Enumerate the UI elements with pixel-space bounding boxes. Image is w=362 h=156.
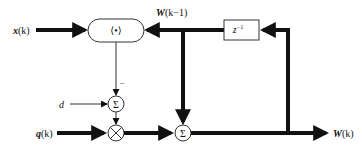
- output-w-label: W(k): [333, 128, 354, 140]
- input-q-label: q(k): [36, 128, 53, 140]
- feedback-w-label: W(k−1): [156, 7, 187, 19]
- desired-d-label: d: [59, 99, 65, 110]
- svg-text:q(k): q(k): [36, 128, 53, 140]
- svg-text:Σ: Σ: [180, 128, 186, 139]
- input-x-label: x(k): [12, 25, 30, 37]
- svg-text:Σ: Σ: [113, 99, 119, 110]
- inner-product-block: ⟨•⟩: [88, 19, 144, 42]
- delay-block: z−1: [224, 20, 259, 40]
- svg-text:W(k): W(k): [333, 128, 354, 140]
- error-sum-node: Σ: [108, 96, 124, 112]
- svg-text:x(k): x(k): [12, 25, 30, 37]
- minus-sign: −: [120, 79, 125, 88]
- svg-text:W(k−1): W(k−1): [156, 7, 187, 19]
- lms-block-diagram: x(k) ⟨•⟩ W(k−1) z−1 − d Σ q(k): [0, 0, 362, 156]
- multiplier-node: [108, 125, 124, 141]
- feedback-path: [263, 30, 288, 133]
- inner-product-symbol: ⟨•⟩: [110, 25, 121, 36]
- update-sum-node: Σ: [175, 125, 191, 141]
